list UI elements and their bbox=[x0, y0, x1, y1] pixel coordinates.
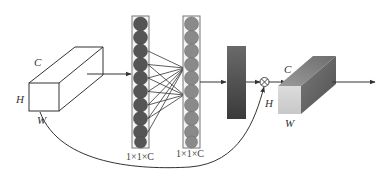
fc1-label: 1×1×C bbox=[126, 151, 154, 162]
fc-layer-1 bbox=[132, 16, 149, 148]
fc1-neurons bbox=[134, 17, 148, 148]
fc-layer-2 bbox=[183, 16, 200, 148]
multiply-operator bbox=[260, 78, 269, 87]
channel-attention-diagram: C H W bbox=[0, 0, 391, 175]
input-channel-label: C bbox=[34, 56, 42, 68]
input-height-label: H bbox=[15, 93, 25, 105]
output-channel-label: C bbox=[284, 63, 292, 75]
activation-block bbox=[227, 46, 246, 119]
output-height-label: H bbox=[264, 97, 274, 109]
output-width-label: W bbox=[285, 117, 295, 129]
fc2-neurons bbox=[185, 17, 199, 148]
fc-connections bbox=[148, 51, 184, 132]
fc2-label: 1×1×C bbox=[176, 148, 204, 159]
